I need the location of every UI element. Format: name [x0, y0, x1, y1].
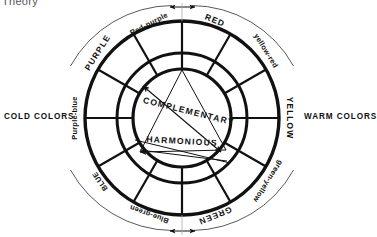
segment-label-yellow-red: yellow-red: [252, 32, 280, 70]
segment-label-purple: PURPLE: [82, 33, 112, 73]
segment-label-yellow: YELLOW: [285, 97, 295, 139]
segment-label-purple-blue: Purple-blue: [70, 96, 79, 139]
complementary-label: COMPLEMENTARY: [142, 95, 236, 127]
color-ring: [85, 21, 279, 215]
top-gap-arrow: [170, 3, 195, 21]
bottom-gap-arrow: [170, 215, 195, 235]
